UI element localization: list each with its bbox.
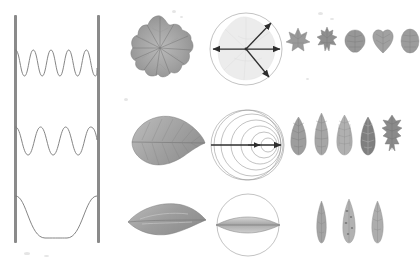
series-elongate-leaf (289, 112, 402, 156)
leaf-lobed-pinnatifid (382, 114, 402, 156)
scan-speck (306, 78, 309, 80)
leaf-palmate-serrate (316, 26, 338, 54)
wave-mode-2 (16, 127, 98, 155)
scan-speck (172, 10, 176, 13)
scan-speck (44, 255, 49, 257)
specimen-lanceolate-leaf (126, 198, 208, 240)
diagram-radial-vector (208, 10, 286, 88)
scan-speck (24, 252, 30, 255)
leaf-palmate-lobed (286, 26, 310, 54)
diagram-wavefront-convergence (208, 108, 288, 182)
leaf-oblanceolate (370, 200, 385, 244)
leaf-elliptic-veined (289, 116, 308, 156)
leaf-linear-slim (315, 200, 328, 244)
leaf-elliptic-reticulate (335, 114, 354, 156)
leaf-orbicular (400, 28, 420, 54)
scan-speck (318, 12, 323, 15)
specimen-palmate-round-leaf (126, 12, 196, 84)
scan-speck (330, 18, 334, 20)
specimen-ovate-serrate-leaf (128, 112, 206, 170)
wave-mode-3 (16, 50, 98, 76)
scan-speck (180, 16, 183, 18)
diagram-lens-cross-section (210, 192, 286, 258)
leaf-cordate (372, 27, 394, 54)
leaf-linear-mottled (341, 198, 357, 244)
standing-wave-panel (0, 0, 120, 264)
leaf-ovate-dark (359, 116, 377, 156)
series-narrow-leaf (315, 198, 385, 244)
leaf-lanceolate-acute (313, 112, 330, 156)
wave-mode-1 (16, 196, 98, 238)
series-broad-leaf (286, 26, 420, 54)
leaf-crenate-round (344, 28, 366, 54)
wave-curves (0, 0, 120, 264)
scan-speck (124, 98, 128, 101)
